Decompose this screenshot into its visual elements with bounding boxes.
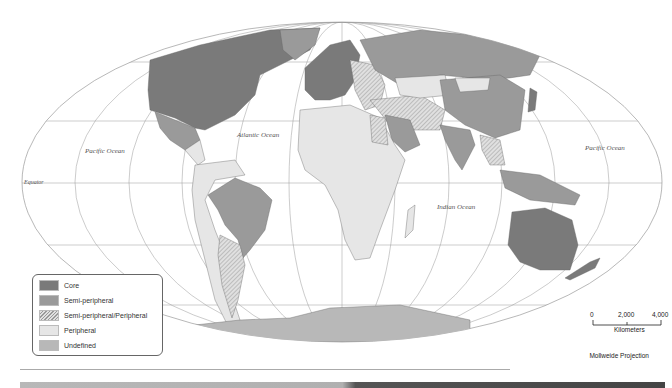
map-legend: Core Semi-peripheral Semi-peripheral/Per… (32, 274, 163, 356)
legend-item-semi-peripheral: Semi-peripheral (39, 293, 162, 308)
projection-label: Mollweide Projection (589, 352, 649, 359)
legend-label: Core (64, 282, 79, 289)
scale-tick-4000: 4,000 (652, 311, 668, 318)
divider (20, 369, 510, 370)
legend-label: Undefined (64, 342, 96, 349)
legend-label: Semi-peripheral (64, 297, 113, 304)
legend-item-core: Core (39, 278, 162, 293)
label-indian: Indian Ocean (436, 203, 476, 211)
hatched-swatch (39, 310, 59, 321)
scale-tick-0: 0 (590, 311, 594, 318)
legend-label: Semi-peripheral/Peripheral (64, 312, 147, 319)
undefined-swatch (39, 340, 59, 351)
region-egypt (370, 115, 388, 145)
region-mongolia (455, 78, 490, 92)
legend-item-undefined: Undefined (39, 338, 162, 353)
legend-item-peripheral: Peripheral (39, 323, 162, 338)
label-atlantic: Atlantic Ocean (236, 131, 280, 139)
bottom-bar (20, 382, 665, 388)
scale-unit: Kilometers (614, 326, 645, 333)
peripheral-swatch (39, 325, 59, 336)
legend-item-semi-peripheral-peripheral: Semi-peripheral/Peripheral (39, 308, 162, 323)
scale-tick-2000: 2,000 (618, 311, 634, 318)
core-swatch (39, 280, 59, 291)
label-pacific-east: Pacific Ocean (584, 144, 625, 152)
legend-label: Peripheral (64, 327, 96, 334)
semi-peripheral-swatch (39, 295, 59, 306)
label-pacific-west: Pacific Ocean (84, 147, 125, 155)
label-equator: Equator (23, 179, 44, 185)
